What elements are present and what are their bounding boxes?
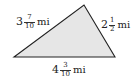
side-left-whole: 3 [16,16,23,27]
side-bottom-numerator: 3 [62,62,68,69]
side-left-numerator: 7 [26,14,32,21]
side-bottom-whole: 4 [52,64,59,75]
side-label-left: 3 7 10 mi [16,14,50,30]
side-right-whole: 2 [101,19,108,30]
side-right-numerator: 1 [109,17,115,24]
side-label-bottom: 4 3 10 mi [52,62,86,78]
side-left-fraction: 7 10 [24,14,35,30]
side-right-unit: mi [117,20,130,30]
side-left-denominator: 10 [24,23,35,30]
side-bottom-denominator: 10 [60,71,71,78]
side-label-right: 2 1 2 mi [101,17,130,33]
side-right-fraction: 1 2 [109,17,115,33]
side-bottom-unit: mi [73,65,86,75]
side-bottom-fraction: 3 10 [60,62,71,78]
side-left-unit: mi [37,17,50,27]
side-right-denominator: 2 [109,26,115,33]
